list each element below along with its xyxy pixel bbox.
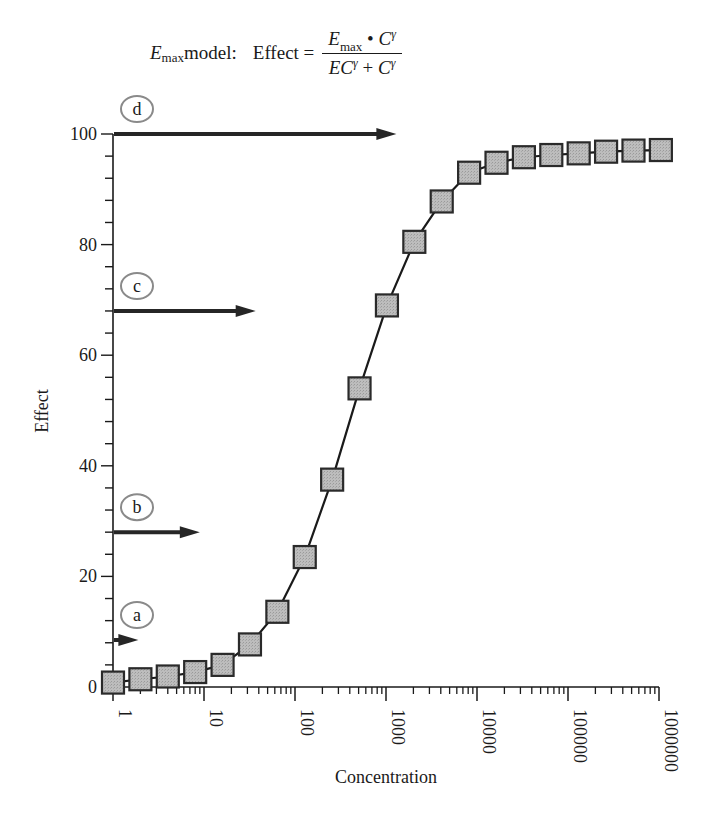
- svg-text:c: c: [133, 276, 141, 296]
- data-point-marker: [431, 190, 453, 212]
- x-tick-label: 1: [115, 709, 135, 718]
- y-axis: 020406080100: [70, 124, 113, 697]
- annotation-d: d: [114, 96, 396, 140]
- x-tick-label: 1000000: [661, 709, 681, 772]
- data-point-marker: [595, 141, 617, 163]
- data-point-marker: [321, 469, 343, 491]
- data-point-marker: [239, 633, 261, 655]
- data-point-marker: [458, 162, 480, 184]
- y-tick-label: 40: [79, 456, 97, 476]
- data-series: [102, 139, 672, 694]
- data-point-marker: [294, 546, 316, 568]
- emax-chart: 020406080100 110100100010000100000100000…: [0, 0, 703, 815]
- data-point-marker: [157, 665, 179, 687]
- x-tick-label: 100: [297, 709, 317, 736]
- data-point-marker: [129, 668, 151, 690]
- data-point-marker: [486, 152, 508, 174]
- x-tick-label: 10000: [479, 709, 499, 754]
- y-tick-label: 20: [79, 566, 97, 586]
- data-point-marker: [102, 672, 124, 694]
- annotation-c: c: [114, 273, 256, 317]
- data-point-marker: [622, 140, 644, 162]
- svg-text:b: b: [133, 497, 142, 517]
- data-point-marker: [568, 142, 590, 164]
- data-point-marker: [540, 144, 562, 166]
- data-point-marker: [403, 231, 425, 253]
- data-point-marker: [513, 146, 535, 168]
- annotation-arrows: abcd: [114, 96, 396, 646]
- x-tick-label: 100000: [570, 709, 590, 763]
- x-tick-label: 1000: [388, 709, 408, 745]
- x-tick-label: 10: [206, 709, 226, 727]
- data-point-marker: [376, 294, 398, 316]
- y-axis-label: Effect: [32, 389, 52, 433]
- annotation-a: a: [114, 602, 153, 646]
- y-tick-label: 100: [70, 124, 97, 144]
- annotation-b: b: [114, 494, 200, 538]
- data-point-marker: [212, 654, 234, 676]
- x-axis-label: Concentration: [335, 767, 437, 787]
- y-tick-label: 60: [79, 345, 97, 365]
- data-point-marker: [266, 601, 288, 623]
- y-tick-label: 80: [79, 235, 97, 255]
- data-point-marker: [184, 661, 206, 683]
- x-axis: 1101001000100001000001000000: [110, 687, 681, 772]
- svg-text:a: a: [133, 605, 141, 625]
- data-point-marker: [650, 139, 672, 161]
- data-point-marker: [349, 377, 371, 399]
- svg-text:d: d: [133, 99, 142, 119]
- y-tick-label: 0: [88, 677, 97, 697]
